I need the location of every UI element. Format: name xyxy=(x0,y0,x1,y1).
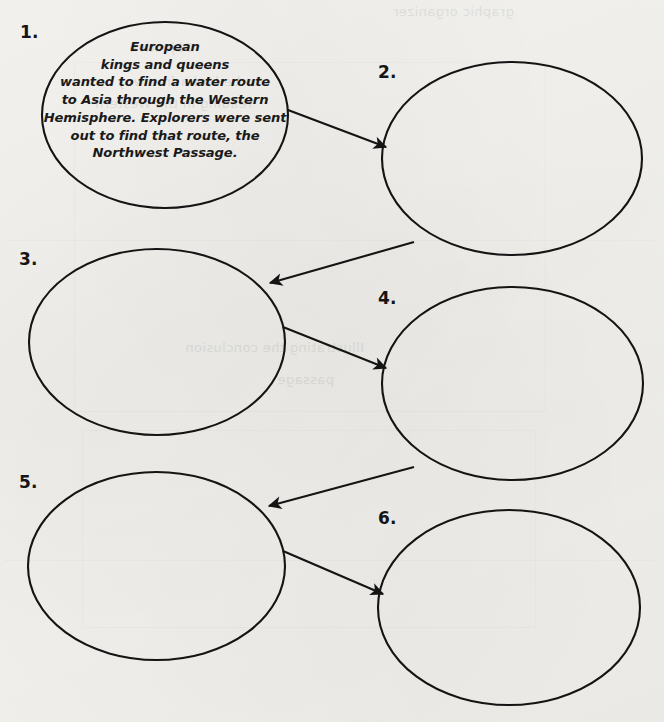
oval-2-shape[interactable] xyxy=(382,62,642,255)
oval-1-answer-text[interactable]: European kings and queens wanted to find… xyxy=(32,38,298,162)
oval-1-line: kings and queens xyxy=(32,56,298,74)
oval-1-line: to Asia through the Western xyxy=(32,91,298,109)
arrow-5-to-6 xyxy=(283,551,383,594)
oval-number-2: 2. xyxy=(378,62,397,82)
oval-number-4: 4. xyxy=(378,288,397,308)
arrow-2-to-3 xyxy=(270,242,414,283)
oval-5-shape[interactable] xyxy=(28,472,285,660)
oval-number-5: 5. xyxy=(19,472,38,492)
oval-4-shape[interactable] xyxy=(382,287,643,480)
oval-1-line: wanted to find a water route xyxy=(32,73,298,91)
oval-number-3: 3. xyxy=(19,249,38,269)
arrow-4-to-5 xyxy=(269,467,414,506)
worksheet-page: graphic organizer Objective to be had a … xyxy=(0,0,664,722)
oval-1-line: European xyxy=(32,38,298,56)
oval-1-line: Hemisphere. Explorers were sent xyxy=(32,109,298,127)
oval-number-6: 6. xyxy=(378,508,397,528)
oval-3-shape[interactable] xyxy=(29,249,285,435)
arrow-3-to-4 xyxy=(283,327,386,368)
arrow-1-to-2 xyxy=(288,110,386,147)
oval-1-line: out to find that route, the xyxy=(32,127,298,145)
oval-6-shape[interactable] xyxy=(378,510,640,705)
oval-1-line: Northwest Passage. xyxy=(32,144,298,162)
